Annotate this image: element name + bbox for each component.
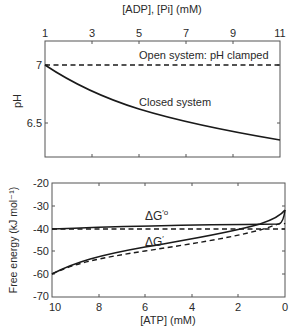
top-y-axis-label: pH [11,94,23,108]
dg-label: ΔG′ [145,234,164,249]
bottom-x-tick-label: 10 [49,301,61,313]
top-x-tick-label: 3 [89,27,95,39]
top-x-axis-label: [ADP], [Pi] (mM) [122,3,201,15]
dg-closed-curve [52,210,285,274]
bottom-y-tick-labels: -20 -30 -40 -50 -60 -70 [33,177,49,302]
bottom-x-tick-label: 2 [235,301,241,313]
bottom-x-tick-label: 0 [282,301,288,313]
bottom-y-tick-label: -60 [33,268,49,280]
top-x-tick-labels: 1 3 5 7 9 11 [42,27,286,39]
bottom-y-tick-label: -20 [33,177,49,189]
top-x-tick-label: 1 [42,27,48,39]
bottom-x-tick-labels: 10 8 6 4 2 0 [49,301,288,313]
bottom-plot-frame [52,183,285,297]
bottom-y-tick-label: -40 [33,223,49,235]
closed-system-label: Closed system [139,96,211,108]
bottom-x-tick-label: 4 [189,301,195,313]
figure: [ADP], [Pi] (mM) 1 3 5 7 9 11 7 6.5 pH [0,0,303,333]
top-panel: [ADP], [Pi] (mM) 1 3 5 7 9 11 7 6.5 pH [11,3,286,157]
dg0-label: ΔG′o [145,208,169,223]
dg-open-curve [52,223,285,274]
top-y-tick-label: 7 [36,59,42,71]
bottom-x-axis-label: [ATP] (mM) [140,314,195,326]
top-x-tick-label: 5 [136,27,142,39]
bottom-y-tick-label: -50 [33,245,49,257]
top-x-tick-label: 7 [183,27,189,39]
top-y-tick-labels: 7 6.5 [27,59,42,129]
bottom-x-tick-label: 8 [96,301,102,313]
top-x-tick-label: 9 [230,27,236,39]
bottom-panel: -20 -30 -40 -50 -60 -70 10 8 6 4 2 0 [AT… [7,177,288,326]
bottom-y-ticks [52,183,285,297]
top-y-tick-label: 6.5 [27,117,42,129]
bottom-y-tick-label: -70 [33,290,49,302]
bottom-y-axis-label: Free energy (kJ mol⁻¹) [7,187,19,293]
bottom-y-tick-label: -30 [33,200,49,212]
top-x-tick-label: 11 [274,27,285,39]
open-system-label: Open system: pH clamped [139,49,269,61]
bottom-x-tick-label: 6 [142,301,148,313]
